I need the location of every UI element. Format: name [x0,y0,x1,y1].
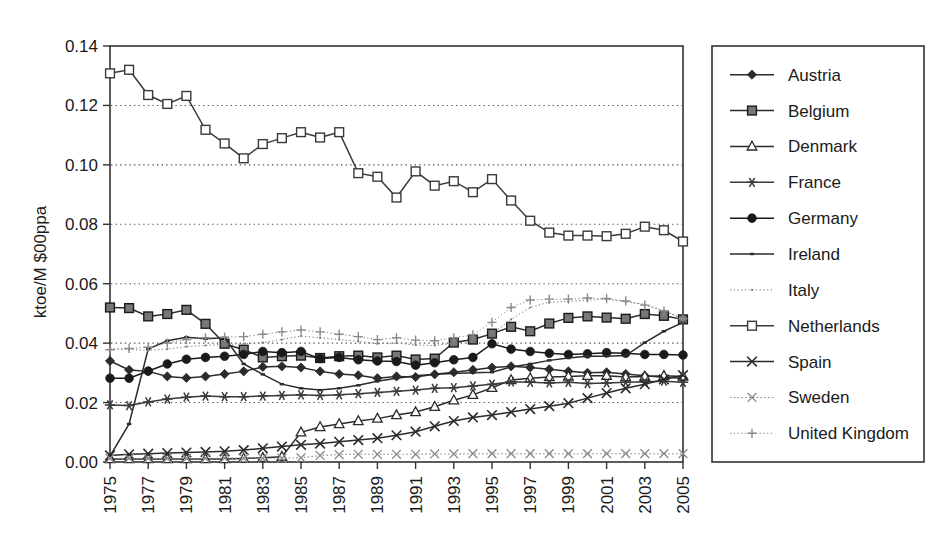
data-point-marker [449,177,458,186]
data-point-marker [280,383,284,385]
data-point-marker [679,351,688,360]
data-point-marker [262,341,264,343]
data-point-marker [182,92,191,101]
data-point-marker [182,355,191,364]
data-point-marker [163,100,172,109]
x-tick-label: 1991 [407,476,426,514]
data-point-marker [583,312,592,321]
data-point-marker [224,343,226,345]
data-point-marker [545,319,554,328]
x-tick-label: 1979 [177,476,196,514]
x-tick-label: 1975 [101,476,120,514]
data-point-marker [411,167,420,176]
y-tick-label: 0.14 [65,37,98,56]
data-point-marker [604,355,608,357]
y-tick-label: 0.04 [65,334,98,353]
data-point-marker [748,321,757,330]
legend-label: Netherlands [788,317,880,336]
legend-label: Spain [788,353,831,372]
data-point-marker [643,341,647,343]
data-point-marker [469,353,478,362]
data-point-marker [526,216,535,225]
data-point-marker [318,389,322,391]
data-point-marker [297,128,306,137]
data-point-marker [660,350,669,359]
data-point-marker [624,354,628,356]
legend-label: France [788,173,841,192]
data-point-marker [413,375,417,377]
data-point-marker [491,333,493,335]
data-point-marker [529,306,531,308]
data-point-marker [488,339,497,348]
legend-label: Denmark [788,137,857,156]
x-tick-label: 1999 [559,476,578,514]
data-point-marker [585,355,589,357]
data-point-marker [281,338,283,340]
data-point-marker [621,229,630,238]
data-point-marker [450,355,459,364]
legend-label: Belgium [788,102,849,121]
y-tick-label: 0.00 [65,453,98,472]
data-point-marker [125,65,134,74]
data-point-marker [602,232,611,241]
x-tick-label: 1981 [216,476,235,514]
y-tick-label: 0.10 [65,156,98,175]
data-point-marker [471,372,475,374]
legend-label: Austria [788,66,841,85]
data-point-marker [201,125,210,134]
y-tick-label: 0.08 [65,215,98,234]
data-point-marker [335,128,344,137]
data-point-marker [528,363,532,365]
data-point-marker [261,373,265,375]
x-tick-label: 1977 [139,476,158,514]
data-point-marker [373,357,382,366]
data-point-marker [125,304,134,313]
data-point-marker [430,181,439,190]
legend-label: Sweden [788,388,849,407]
data-point-marker [316,133,325,142]
data-point-marker [278,348,287,357]
x-tick-label: 1985 [292,476,311,514]
data-point-marker [242,363,246,365]
data-point-marker [319,337,321,339]
data-point-marker [392,357,401,366]
data-point-marker [127,423,131,425]
data-point-marker [373,172,382,181]
data-point-marker [602,313,611,322]
data-point-marker [278,134,287,143]
data-point-marker [490,371,494,373]
data-point-marker [583,231,592,240]
line-chart-figure: ktoe/M $00ppa 0.000.020.040.060.080.100.… [0,0,937,546]
data-point-marker [660,226,669,235]
data-point-marker [106,303,115,312]
data-point-marker [621,314,630,323]
data-point-marker [220,352,229,361]
data-point-marker [335,353,344,362]
x-tick-label: 2005 [674,476,693,514]
chart-container: ktoe/M $00ppa 0.000.020.040.060.080.100.… [0,0,937,546]
y-tick-label: 0.02 [65,394,98,413]
data-point-marker [564,313,573,322]
y-axis-title: ktoe/M $00ppa [31,205,50,318]
data-point-marker [750,253,754,255]
data-point-marker [507,322,516,331]
legend-label: Italy [788,281,820,300]
data-point-marker [163,310,172,319]
data-point-marker [258,140,267,149]
data-point-marker [526,327,535,336]
data-point-marker [452,372,456,374]
data-point-marker [507,345,516,354]
x-tick-label: 1997 [521,476,540,514]
data-point-marker [316,354,325,363]
x-tick-label: 1993 [445,476,464,514]
data-point-marker [394,377,398,379]
data-point-marker [469,188,478,197]
data-point-marker [547,359,551,361]
data-point-marker [509,366,513,368]
data-point-marker [297,347,306,356]
data-point-marker [392,193,401,202]
data-point-marker [239,154,248,163]
data-point-marker [106,374,115,383]
data-point-marker [243,343,245,345]
data-point-marker [185,346,187,348]
